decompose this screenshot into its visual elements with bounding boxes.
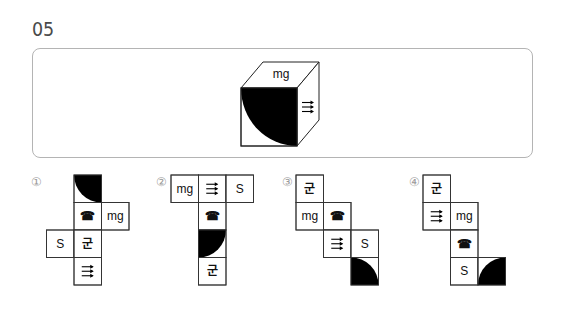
face-symbol-phone: ☎: [457, 237, 472, 251]
net-face: [74, 258, 102, 286]
face-symbol-S: S: [460, 264, 468, 278]
triple-arrow-icon: [82, 265, 94, 278]
face-symbol-phone: ☎: [330, 209, 345, 223]
cube-figure: mg: [241, 62, 319, 146]
net-face: [423, 203, 451, 231]
net-face: 군: [199, 258, 227, 286]
net-face: mg: [102, 203, 130, 231]
net-face: ☎: [324, 203, 352, 231]
option-1[interactable]: ①☎mgS군: [31, 175, 130, 285]
answer-options: ①☎mgS군②mgS☎군③군mg☎S④군mg☎S: [31, 175, 506, 285]
option-label: ③: [282, 175, 293, 189]
net-face: 군: [74, 230, 102, 258]
diagram-canvas: mg ①☎mgS군②mgS☎군③군mg☎S④군mg☎S: [0, 0, 561, 311]
face-symbol-phone: ☎: [205, 209, 220, 223]
net-face: ☎: [199, 203, 227, 231]
net-face: [324, 230, 352, 258]
triple-arrow-icon: [331, 237, 343, 250]
face-symbol-S: S: [56, 237, 64, 251]
net-face: S: [47, 230, 75, 258]
face-symbol-mg: mg: [301, 209, 318, 223]
option-3[interactable]: ③군mg☎S: [282, 175, 379, 285]
face-symbol-gun: 군: [82, 237, 93, 251]
net-face: mg: [451, 203, 479, 231]
option-label: ④: [409, 175, 420, 189]
net-face: ☎: [74, 203, 102, 231]
face-symbol-S: S: [361, 237, 369, 251]
net-face: S: [226, 175, 254, 203]
face-symbol-gun: 군: [431, 182, 442, 196]
option-label: ②: [156, 175, 167, 189]
net-face: mg: [171, 175, 199, 203]
net-face: S: [451, 258, 479, 286]
net-face: 군: [423, 175, 451, 203]
face-symbol-mg: mg: [107, 209, 124, 223]
triple-arrow-icon: [206, 182, 218, 195]
option-2[interactable]: ②mgS☎군: [156, 175, 254, 285]
face-symbol-S: S: [236, 182, 244, 196]
net-face: mg: [296, 203, 324, 231]
face-symbol-gun: 군: [207, 264, 218, 278]
face-symbol-mg: mg: [456, 209, 473, 223]
face-symbol-mg: mg: [273, 67, 290, 81]
face-symbol-mg: mg: [176, 182, 193, 196]
net-face: 군: [296, 175, 324, 203]
net-face: [478, 258, 506, 286]
net-face: [74, 175, 102, 203]
triple-arrow-icon: [431, 210, 443, 223]
net-face: [199, 175, 227, 203]
option-4[interactable]: ④군mg☎S: [409, 175, 506, 285]
net-face: [199, 230, 227, 258]
face-symbol-gun: 군: [304, 182, 315, 196]
option-label: ①: [31, 175, 42, 189]
net-face: S: [351, 230, 379, 258]
net-face: [351, 258, 379, 286]
net-face: ☎: [451, 230, 479, 258]
triple-arrow-icon: [302, 101, 314, 114]
face-symbol-phone: ☎: [80, 209, 95, 223]
